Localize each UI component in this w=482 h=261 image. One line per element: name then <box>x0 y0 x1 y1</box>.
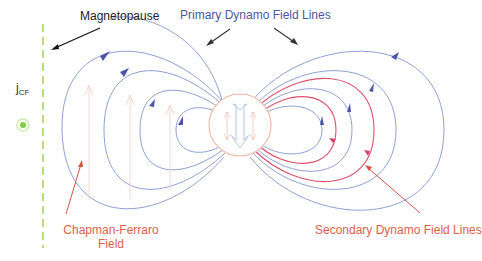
magnetopause-pointer-arrow <box>51 28 100 50</box>
jcf-subscript: CF <box>19 88 30 97</box>
chapman-label-line2: Field <box>58 238 164 252</box>
secondary-dynamo-label: Secondary Dynamo Field Lines <box>315 224 482 238</box>
planet-sphere <box>209 94 271 156</box>
chapman-ferraro-label: Chapman-Ferraro Field <box>58 224 164 252</box>
magnetopause-label: Magnetopause <box>80 10 159 24</box>
primary-dynamo-label: Primary Dynamo Field Lines <box>180 9 331 23</box>
circle-dot-icon <box>17 119 29 131</box>
secondary-dynamo-field-lines <box>254 78 374 181</box>
primary-pointer-arrows <box>206 28 298 46</box>
right-field-arrow-icons <box>320 52 399 156</box>
chapman-ferraro-field-arrows <box>85 85 174 200</box>
chapman-label-line1: Chapman-Ferraro <box>58 224 164 238</box>
jcf-label: jCF <box>16 82 29 97</box>
right-primary-field-lines <box>250 51 444 210</box>
left-primary-field-lines <box>62 17 230 209</box>
